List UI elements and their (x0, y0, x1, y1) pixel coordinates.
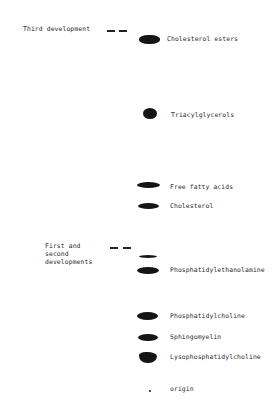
spot-unlabeled-band (139, 255, 157, 258)
spot-phosphatidylcholine (137, 312, 158, 320)
label-origin: origin (170, 385, 194, 393)
label-phosphatidylcholine: Phosphatidylcholine (170, 312, 245, 320)
label-free-fatty-acids: Free fatty acids (170, 183, 233, 191)
front-dash (123, 247, 131, 249)
front-dash (110, 247, 118, 249)
spot-cholesterol-esters (139, 35, 160, 44)
label-sphingomyelin: Sphingomyelin (170, 333, 221, 341)
label-phosphatidylethanolamine: Phosphatidylethanolamine (170, 266, 265, 274)
third-development-label: Third development (23, 25, 90, 33)
origin-dot (149, 390, 151, 392)
spot-triacylglycerols (143, 108, 157, 119)
label-triacylglycerols: Triacylglycerols (171, 111, 234, 119)
label-lysophosphatidylcholine: Lysophosphatidylcholine (170, 353, 261, 361)
label-cholesterol-esters: Cholesterol esters (167, 35, 238, 43)
spot-phosphatidylethanolamine (137, 267, 159, 274)
front-dash (107, 30, 115, 32)
spot-cholesterol (138, 203, 159, 209)
spot-lysophosphatidylcholine (139, 352, 157, 363)
label-cholesterol: Cholesterol (170, 202, 213, 210)
first-second-developments-label: First and second developments (45, 242, 92, 266)
spot-sphingomyelin (138, 334, 158, 341)
spot-free-fatty-acids (137, 182, 160, 188)
front-dash (119, 30, 127, 32)
